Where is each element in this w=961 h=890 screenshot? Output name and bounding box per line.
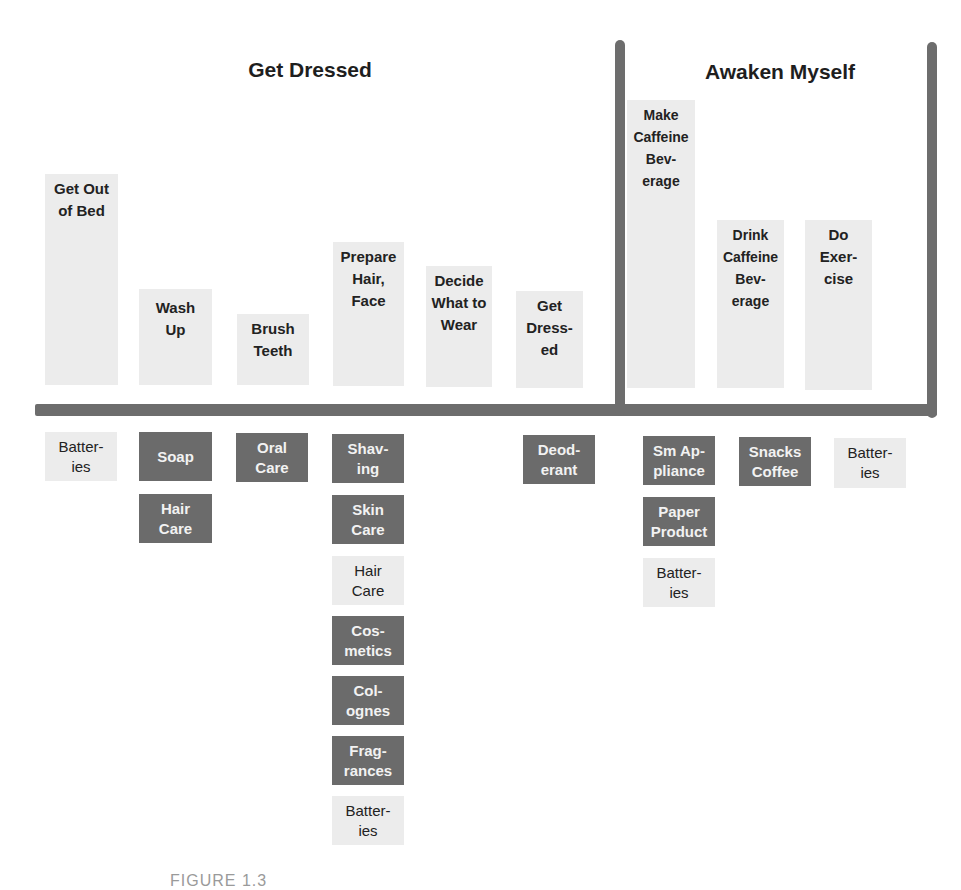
product-colognes: Col- ognes [332, 676, 404, 725]
task-brush-teeth: Brush Teeth [237, 314, 309, 385]
group-divider-right-bar [927, 42, 937, 418]
task-drink-caffeine-beverage: Drink Caffeine Bev- erage [717, 220, 784, 388]
product-batteries: Batter- ies [643, 558, 715, 607]
group-title-awaken-myself: Awaken Myself [680, 60, 880, 84]
group-title-get-dressed: Get Dressed [190, 58, 430, 82]
product-batteries: Batter- ies [332, 796, 404, 845]
product-fragrances: Frag- rances [332, 736, 404, 785]
product-snacks-coffee: Snacks Coffee [739, 437, 811, 486]
product-shaving: Shav- ing [332, 434, 404, 483]
figure-caption: FIGURE 1.3 [170, 872, 267, 890]
product-deodorant: Deod- erant [523, 435, 595, 484]
product-hair-care: Hair Care [332, 556, 404, 605]
product-hair-care: Hair Care [139, 494, 212, 543]
product-soap: Soap [139, 432, 212, 481]
task-decide-what-to-wear: Decide What to Wear [426, 266, 492, 387]
task-get-dressed: Get Dress- ed [516, 291, 583, 388]
product-batteries: Batter- ies [45, 432, 117, 481]
product-batteries: Batter- ies [834, 438, 906, 488]
task-make-caffeine-beverage: Make Caffeine Bev- erage [627, 100, 695, 388]
product-oral-care: Oral Care [236, 433, 308, 482]
timeline-horizontal-bar [35, 404, 937, 416]
task-wash-up: Wash Up [139, 289, 212, 385]
group-divider-left-bar [615, 40, 625, 416]
task-prepare-hair-face: Prepare Hair, Face [333, 242, 404, 386]
product-small-appliance: Sm Ap- pliance [643, 436, 715, 485]
product-skin-care: Skin Care [332, 495, 404, 544]
task-do-exercise: Do Exer- cise [805, 220, 872, 390]
product-paper-product: Paper Product [643, 497, 715, 546]
task-get-out-of-bed: Get Out of Bed [45, 174, 118, 385]
product-cosmetics: Cos- metics [332, 616, 404, 665]
